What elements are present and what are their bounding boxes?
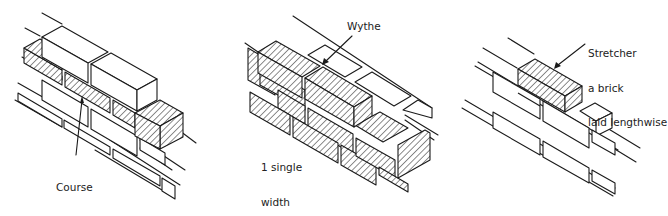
course-label-line-1: Course — [56, 182, 97, 194]
figure-course — [15, 13, 196, 199]
stretcher-label-line-3: laid lengthwise — [588, 117, 667, 129]
course-label: Course 1 single layer — [56, 159, 97, 216]
brick-diagram-canvas — [0, 0, 668, 216]
wythe-label: Wythe — [347, 21, 381, 33]
stretcher-label-line-1: Stretcher — [588, 48, 667, 60]
stretcher-leader-line — [558, 44, 585, 65]
stretcher-label-line-2: a brick — [588, 83, 667, 95]
wythe-side-label-line-1: 1 single — [261, 162, 302, 174]
wythe-side-label: 1 single width of brick wall — [261, 139, 302, 216]
wythe-side-label-line-2: width — [261, 197, 302, 209]
stretcher-label: Stretcher a brick laid lengthwise — [588, 25, 667, 140]
